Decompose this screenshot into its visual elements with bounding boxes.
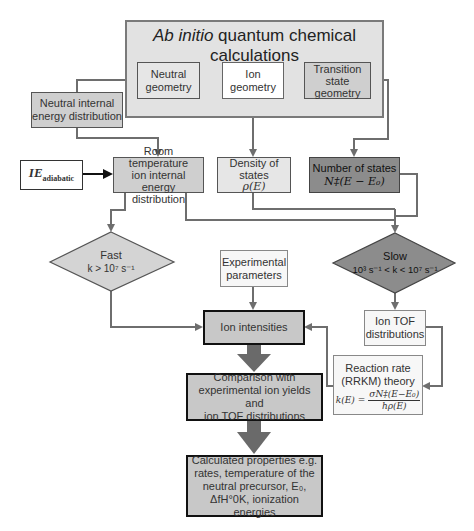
ion-tof-box: Ion TOF distributions xyxy=(364,310,426,346)
rrkm-formula: k(E) = σN‡(E−E₀)hρ(E) xyxy=(336,389,420,412)
transition-state-geometry-box: Transition state geometry xyxy=(304,62,371,99)
neutral-internal-energy-box: Neutral internal energy distribution xyxy=(31,92,123,128)
ie-adiabatic-box: IEadiabatic xyxy=(20,160,83,190)
number-of-states-box: Number of states N‡(E − E₀) xyxy=(309,157,400,193)
room-temperature-box: Room temperature ion internal energy dis… xyxy=(113,157,204,193)
slow-label: Slow 10³ s⁻¹ < k < 10⁷ s⁻¹ xyxy=(335,249,455,277)
rrkm-theory-box: Reaction rate (RRKM) theory k(E) = σN‡(E… xyxy=(333,355,423,415)
ion-intensities-box: Ion intensities xyxy=(203,310,305,345)
ion-geometry-box: Ion geometry xyxy=(222,62,284,99)
comparison-box: Comparison with experimental ion yields … xyxy=(186,373,323,421)
calculated-properties-box: Calculated properties e.g. rates, temper… xyxy=(186,455,323,517)
neutral-geometry-box: Neutral geometry xyxy=(137,62,200,99)
experimental-parameters-box: Experimental parameters xyxy=(220,250,288,287)
density-of-states-box: Density of states ρ(E) xyxy=(217,157,291,193)
fast-label: Fast k > 10⁷ s⁻¹ xyxy=(60,248,162,276)
ab-initio-title: Ab initio quantum chemical calculations xyxy=(127,26,382,66)
